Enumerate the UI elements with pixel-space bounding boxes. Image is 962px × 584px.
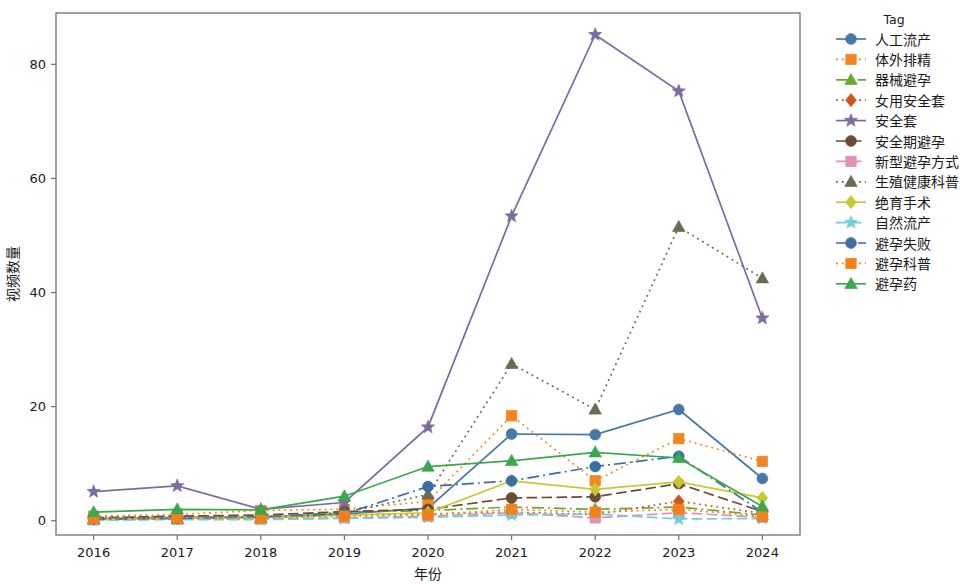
legend-item-label: 新型避孕方式 [875,154,959,170]
legend-item-8[interactable]: 绝育手术 [836,195,931,211]
legend-item-label: 人工流产 [875,32,931,48]
legend-item-label: 器械避孕 [875,72,931,88]
y-tick-label: 80 [29,57,46,72]
series-marker [757,473,768,484]
series-marker [506,429,517,440]
legend-item-label: 女用安全套 [875,93,945,109]
legend-marker-square-icon [846,156,856,166]
legend-item-label: 安全期避孕 [875,134,945,150]
legend-marker-square-icon [846,258,856,268]
y-tick-label: 60 [29,171,46,186]
legend-marker-square-icon [846,54,856,64]
series-marker [506,475,517,486]
x-tick-label: 2020 [411,545,444,560]
y-tick-label: 20 [29,399,46,414]
x-tick-label: 2018 [244,545,277,560]
x-tick-label: 2019 [328,545,361,560]
legend-item-label: 体外排精 [875,52,931,68]
series-marker [590,507,600,517]
series-marker [506,504,516,514]
legend-item-label: 生殖健康科普 [875,174,959,190]
series-marker [590,429,601,440]
x-tick-label: 2016 [77,545,110,560]
series-marker [674,504,684,514]
series-marker [757,456,767,466]
legend-item-label: 自然流产 [875,215,931,231]
series-marker [673,404,684,415]
series-marker [590,461,601,472]
legend-marker-circle-icon [846,238,857,249]
legend-marker-circle-icon [846,136,857,147]
y-axis-title: 视频数量 [5,246,21,302]
legend-title: Tag [882,12,904,27]
y-tick-label: 40 [29,285,46,300]
x-tick-label: 2021 [495,545,528,560]
legend-item-label: 避孕药 [875,276,917,292]
x-tick-label: 2024 [746,545,779,560]
legend-item-label: 绝育手术 [875,195,931,211]
series-marker [339,511,349,521]
x-tick-label: 2022 [579,545,612,560]
series-marker [506,411,516,421]
x-tick-label: 2023 [662,545,695,560]
series-marker [674,433,684,443]
x-axis-title: 年份 [414,566,442,582]
y-tick-label: 0 [38,513,46,528]
x-tick-label: 2017 [161,545,194,560]
series-marker [506,493,517,504]
series-marker [423,481,434,492]
series-marker [423,510,433,520]
series-marker [757,511,767,521]
legend-marker-circle-icon [846,34,857,45]
legend-item-label: 安全套 [875,113,917,129]
legend-item-label: 避孕失败 [875,236,931,252]
line-chart-figure: 0204060802016201720182019202020212022202… [0,0,962,584]
legend-item-label: 避孕科普 [875,256,931,272]
